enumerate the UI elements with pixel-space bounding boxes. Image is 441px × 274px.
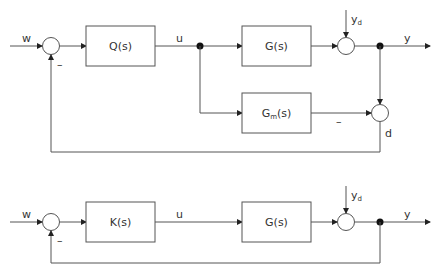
summing-junction-1 [43,38,60,55]
plant-g-label-2: G(s) [265,216,288,229]
model-gm-label: Gm(s) [262,107,292,121]
summing-junction-2 [338,38,355,55]
label-w-2: w [22,208,31,221]
label-u-2: u [176,208,183,221]
summing-junction-5 [338,214,355,231]
minus-sign-2: – [57,234,63,247]
controller-q-label: Q(s) [109,40,132,53]
label-u: u [176,32,183,45]
label-y: y [404,32,411,45]
label-d: d [385,127,392,140]
feedback-diagram: w – K(s) u G(s) yd y [10,186,430,263]
plant-g-label: G(s) [265,40,288,53]
minus-sign-model: – [336,115,342,128]
block-diagrams: w – Q(s) u G(s) yd y Gm(s) – [0,0,441,274]
feedback-line-1 [51,55,380,152]
label-w: w [22,32,31,45]
imc-diagram: w – Q(s) u G(s) yd y Gm(s) – [10,10,430,152]
label-y-2: y [404,208,411,221]
minus-sign-1: – [57,58,63,71]
summing-junction-3 [372,105,389,122]
summing-junction-4 [43,214,60,231]
model-input-line [200,46,242,113]
label-yd-2: yd [351,189,362,203]
controller-k-label: K(s) [110,216,132,229]
label-yd: yd [351,13,362,27]
